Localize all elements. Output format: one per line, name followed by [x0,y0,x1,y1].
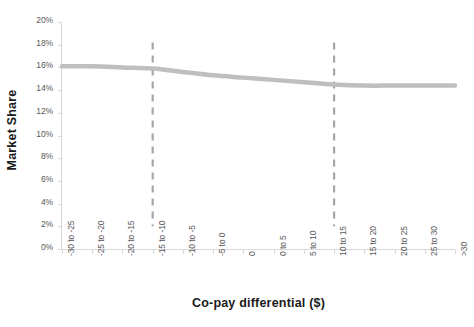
x-tick-mark [243,250,244,254]
y-axis-title: Market Share [0,0,24,260]
x-tick-label-text: 0 [247,251,257,256]
y-tick-label: 14% [36,83,53,93]
y-tick-label: 8% [41,151,53,161]
y-tick-label: 4% [41,197,53,207]
x-tick-label-text: 20 to 25 [399,226,409,256]
x-tick-label-text: -5 to 0 [217,233,227,256]
y-tick-mark [58,136,62,137]
y-tick-mark [58,113,62,114]
market-share-line-chart: Market Share 0%2%4%6%8%10%12%14%16%18%20… [0,0,474,327]
x-axis-title: Co-pay differential ($) [62,296,455,310]
x-tick-mark [153,250,154,254]
y-tick-label: 6% [41,174,53,184]
x-tick-label-text: -20 to -15 [126,221,136,256]
x-tick-mark [92,250,93,254]
x-tick-mark [122,250,123,254]
x-tick-label-text: 15 to 20 [368,226,378,256]
y-tick-mark [58,204,62,205]
y-tick-label: 20% [36,15,53,25]
series-line-0 [62,66,455,85]
y-tick-label: 2% [41,219,53,229]
y-tick-label: 12% [36,106,53,116]
x-tick-mark [274,250,275,254]
y-tick-label: 10% [36,129,53,139]
x-tick-label-text: >30 [459,242,469,256]
x-tick-label-text: 5 to 10 [308,231,318,256]
x-tick-mark [183,250,184,254]
y-tick-label: 18% [36,38,53,48]
x-tick-mark [304,250,305,254]
x-tick-mark [425,250,426,254]
x-tick-label-text: 0 to 5 [278,235,288,256]
reference-lines-group [153,42,334,226]
y-tick-mark [58,181,62,182]
x-tick-mark [455,250,456,254]
x-tick-mark [395,250,396,254]
x-tick-label-text: -10 to -5 [187,225,197,256]
x-tick-label-text: -30 to -25 [66,221,76,256]
y-tick-mark [58,226,62,227]
x-tick-mark [62,250,63,254]
y-tick-mark [58,22,62,23]
x-tick-mark [364,250,365,254]
y-tick-mark [58,67,62,68]
x-tick-mark [213,250,214,254]
x-tick-label-text: 25 to 30 [429,226,439,256]
y-tick-label: 0% [41,242,53,252]
y-tick-mark [58,158,62,159]
y-axis-title-label: Market Share [5,90,19,171]
x-tick-label-text: -15 to -10 [157,221,167,256]
x-axis-title-label: Co-pay differential ($) [192,296,325,310]
y-tick-mark [58,90,62,91]
x-tick-mark [334,250,335,254]
y-tick-label: 16% [36,60,53,70]
data-series-group [62,66,455,85]
plot-series-layer [0,0,474,327]
x-axis-line [61,249,455,250]
x-tick-label-text: 10 to 15 [338,226,348,256]
x-tick-label-text: -25 to -20 [96,221,106,256]
y-tick-mark [58,45,62,46]
